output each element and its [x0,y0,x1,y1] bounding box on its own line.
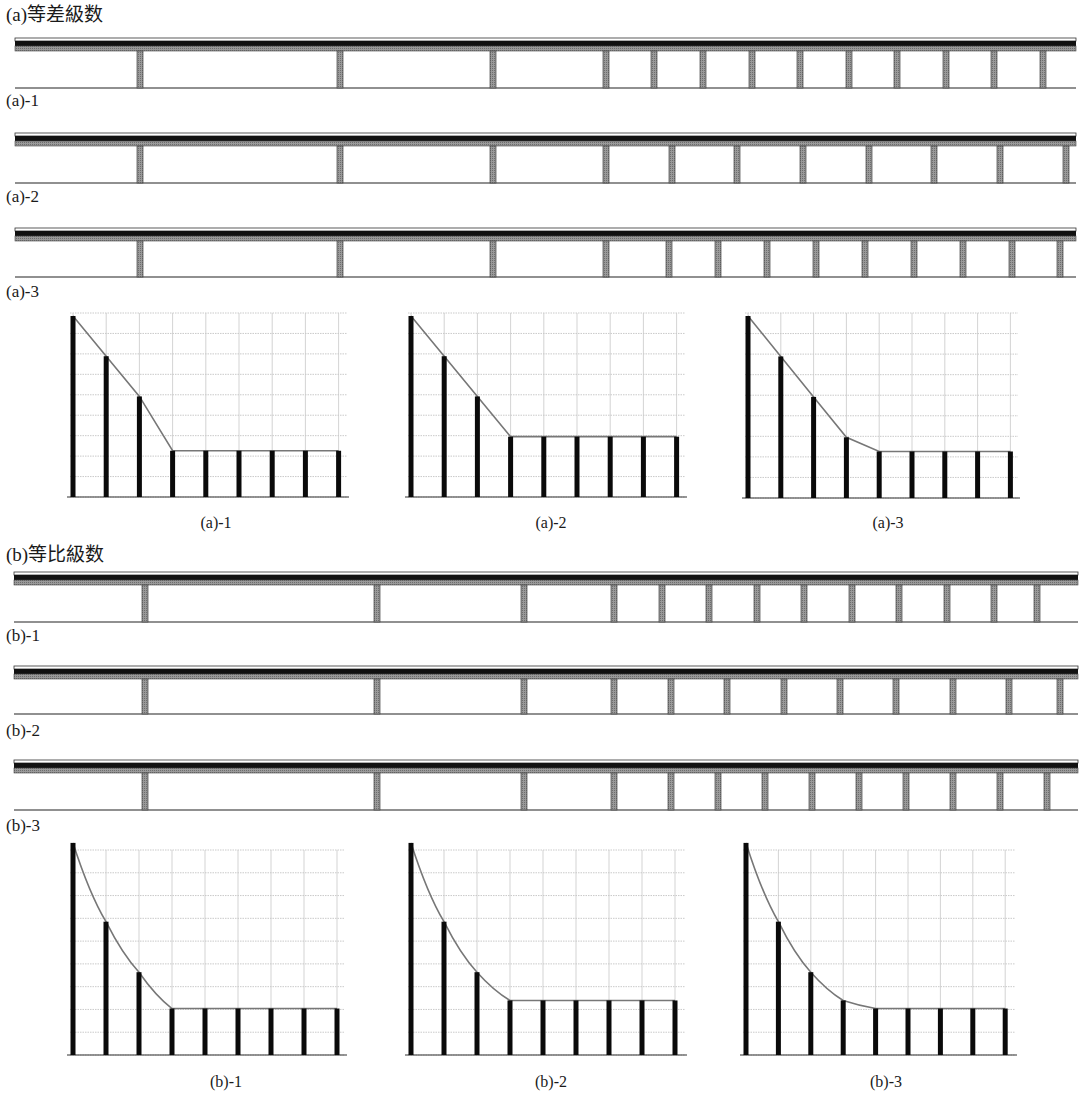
bar [841,1000,846,1055]
bar [778,356,783,498]
bar [203,1009,208,1055]
chart-(b)-1 [67,843,347,1055]
bar [910,451,915,498]
pillar [781,679,787,714]
pillar [1057,679,1063,714]
bar [1003,1009,1008,1055]
pillar [137,51,143,88]
pillar [490,51,496,88]
bar [744,843,749,1055]
bar [970,1009,975,1055]
pillar [809,773,815,810]
pillar [991,51,997,88]
pillar [862,241,868,277]
pillar [374,773,380,810]
pillar [944,585,950,622]
bar [541,1000,546,1055]
bar [906,1009,911,1055]
pillar [651,51,657,88]
bar [104,356,109,497]
pillar [800,146,806,183]
bar [574,1000,579,1055]
pillar [611,679,617,714]
bar [237,451,242,497]
bar [877,451,882,498]
bar [303,451,308,497]
pillar [896,585,902,622]
bar [641,437,646,497]
pillar [943,51,949,88]
bar [508,437,513,497]
pillar [1040,51,1046,88]
pillar [1006,679,1012,714]
pillar [337,146,343,183]
pillar [903,773,909,810]
bar [270,451,275,497]
bar [302,1009,307,1055]
bar [409,316,414,497]
pillar [611,773,617,810]
pillar [521,585,527,622]
pillar [960,241,966,277]
pillar [997,773,1003,810]
pillar [764,241,770,277]
pillar [611,585,617,622]
pillar [749,51,755,88]
bar [844,437,849,498]
bar [975,451,980,498]
pillar [142,585,148,622]
bar [607,1000,612,1055]
pillar [724,679,730,714]
bar [335,1009,340,1055]
pillar [142,679,148,714]
bar [776,922,781,1055]
pillar [666,241,672,277]
pillar [911,241,917,277]
pillar [521,773,527,810]
bar [203,451,208,497]
chart-(b)-2 [405,843,687,1055]
pillar [669,146,675,183]
pillar [950,679,956,714]
pillar [894,51,900,88]
pillar [846,51,852,88]
pillar [490,241,496,277]
pillar [137,241,143,277]
bar [608,437,613,497]
chart-(b)-3 [740,843,1017,1055]
bar [71,843,76,1055]
bridge-(b)-2 [14,666,1078,714]
bar [575,437,580,497]
pillar [1063,146,1069,183]
bar [938,1009,943,1055]
bar [475,396,480,497]
bar [811,397,816,498]
pillar [668,679,674,714]
bar [71,316,76,497]
bar [170,1009,175,1055]
bar [442,922,447,1055]
bar [1008,451,1013,498]
pillar [837,679,843,714]
bridge-(b)-3 [14,760,1078,810]
bar [640,1000,645,1055]
chart-(a)-3 [742,313,1020,498]
pillar [137,146,143,183]
pillar [797,51,803,88]
pillar [337,241,343,277]
pillar [374,585,380,622]
pillar [715,241,721,277]
bridge-(a)-2 [15,133,1076,183]
bar [137,972,142,1055]
bridge-(b)-1 [14,572,1078,622]
pillar [603,51,609,88]
pillar [700,51,706,88]
pillar [490,146,496,183]
bridge-(a)-1 [15,38,1076,88]
bar [873,1009,878,1055]
pillar [893,679,899,714]
bar [746,316,751,498]
pillar [991,585,997,622]
bridge-(a)-3 [15,228,1076,277]
pillar [715,773,721,810]
